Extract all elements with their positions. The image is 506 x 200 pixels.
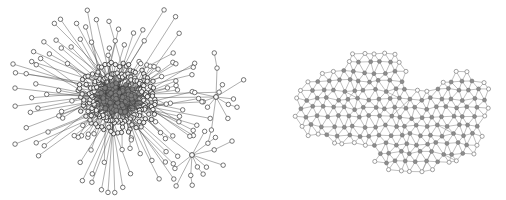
leaf-node — [162, 8, 167, 13]
leaf-node — [28, 110, 33, 115]
leaf-node — [86, 132, 91, 137]
mesh-interior-node — [321, 104, 325, 108]
satellite-spoke-edge — [191, 155, 192, 175]
leaf-node — [29, 59, 34, 64]
satellite-spoke-edge — [214, 141, 232, 150]
mesh-boundary-node — [475, 143, 479, 147]
mesh-interior-node — [473, 96, 477, 100]
mesh-boundary-node — [472, 152, 476, 156]
leaf-node — [157, 177, 162, 182]
panel-scale-free-network — [0, 0, 253, 200]
leaf-node — [31, 49, 36, 54]
leaf-node — [69, 45, 74, 50]
leaf-node — [13, 142, 18, 147]
mesh-boundary-node — [454, 69, 458, 73]
mesh-interior-node — [385, 161, 389, 165]
mesh-boundary-node — [373, 159, 377, 163]
mesh-interior-node — [444, 105, 448, 109]
mesh-interior-node — [445, 124, 449, 128]
mesh-interior-node — [475, 124, 479, 128]
mesh-interior-node — [397, 96, 401, 100]
leaf-node — [177, 31, 182, 36]
mesh-interior-node — [426, 142, 430, 146]
mesh-interior-node — [342, 105, 346, 109]
mesh-boundary-node — [486, 106, 490, 110]
mesh-interior-node — [377, 59, 381, 63]
mesh-boundary-node — [415, 88, 419, 92]
mesh-boundary-node — [465, 70, 469, 74]
mesh-interior-node — [363, 126, 367, 130]
mesh-interior-node — [399, 149, 403, 153]
leaf-node — [54, 38, 59, 43]
mesh-interior-node — [445, 141, 449, 145]
mesh-boundary-node — [447, 160, 451, 164]
core-node — [120, 95, 125, 100]
mesh-interior-node — [335, 134, 339, 138]
leaf-node — [78, 160, 83, 165]
ring-node — [137, 120, 141, 124]
leaf-node — [190, 183, 195, 188]
mesh-interior-node — [369, 60, 373, 64]
leaf-node — [138, 61, 143, 66]
mesh-interior-node — [483, 98, 487, 102]
leaf-node — [38, 56, 43, 61]
mesh-interior-node — [325, 133, 329, 137]
leaf-node — [57, 114, 62, 119]
leaf-node — [42, 40, 47, 45]
leaf-node — [226, 116, 231, 121]
leaf-node — [171, 134, 176, 139]
mesh-boundary-node — [404, 69, 408, 73]
leaf-node — [46, 130, 51, 135]
mesh-boundary-node — [332, 141, 336, 145]
leaf-node — [107, 19, 112, 24]
leaf-node — [177, 120, 182, 125]
mesh-interior-node — [446, 86, 450, 90]
ring-node — [117, 65, 121, 69]
leaf-node — [90, 180, 95, 185]
leaf-node — [152, 64, 157, 69]
mesh-interior-node — [357, 115, 361, 119]
satellite-spoke-edge — [192, 155, 223, 165]
leaf-node — [92, 132, 97, 137]
mesh-interior-node — [393, 159, 397, 163]
mesh-interior-node — [324, 96, 328, 100]
core-node — [118, 109, 123, 114]
mesh-boundary-node — [300, 124, 304, 128]
leaf-node — [34, 82, 39, 87]
leaf-node — [174, 62, 179, 67]
mesh-interior-node — [408, 131, 412, 135]
mesh-interior-node — [383, 123, 387, 127]
leaf-node — [215, 66, 220, 71]
mesh-interior-node — [425, 159, 429, 163]
mesh-interior-node — [361, 105, 365, 109]
ring-node — [126, 62, 130, 66]
mesh-interior-node — [457, 123, 461, 127]
mesh-boundary-node — [306, 134, 310, 138]
leaf-node — [81, 123, 86, 128]
mesh-interior-node — [430, 115, 434, 119]
mesh-interior-node — [403, 159, 407, 163]
ring-node — [147, 112, 151, 116]
ring-node — [152, 112, 156, 116]
mesh-interior-node — [402, 124, 406, 128]
mesh-boundary-node — [293, 114, 297, 118]
ring-node — [96, 70, 100, 74]
mesh-boundary-node — [320, 71, 324, 75]
mesh-boundary-node — [331, 69, 335, 73]
ring-node — [113, 62, 117, 66]
leaf-node — [47, 52, 52, 57]
ring-node — [133, 70, 137, 74]
leaf-node — [153, 120, 158, 125]
ring-node — [150, 94, 154, 98]
leaf-node — [173, 14, 178, 19]
scale-free-node-layer — [11, 8, 246, 195]
mesh-boundary-node — [397, 60, 401, 64]
leaf-node — [164, 149, 169, 154]
leaf-node — [56, 88, 61, 93]
mesh-interior-node — [410, 117, 414, 121]
mesh-interior-node — [309, 122, 313, 126]
leaf-node — [24, 125, 29, 130]
leaf-node — [158, 130, 163, 135]
mesh-interior-node — [388, 78, 392, 82]
mesh-interior-node — [327, 79, 331, 83]
